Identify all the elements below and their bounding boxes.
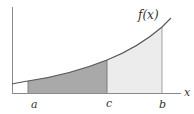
- point-label-a: a: [31, 98, 38, 111]
- point-label-c: c: [106, 97, 112, 110]
- function-label: f(x): [137, 8, 159, 22]
- region-c-to-b: [107, 27, 162, 93]
- integral-area-diagram: f(x) x a c b: [0, 0, 194, 114]
- x-axis-label: x: [184, 86, 191, 99]
- point-label-b: b: [159, 98, 166, 111]
